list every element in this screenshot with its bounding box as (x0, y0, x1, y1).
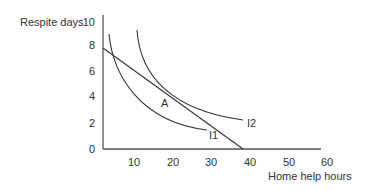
y-tick-label: 10 (83, 16, 95, 28)
y-tick-label: 2 (89, 117, 95, 129)
budget-line (103, 48, 243, 149)
y-tick-label: 6 (89, 65, 95, 77)
y-axis-title: Respite days (20, 16, 84, 28)
x-tick-label: 20 (167, 156, 179, 168)
indifference-curve-i2 (137, 30, 243, 120)
y-tick-label: 8 (89, 39, 95, 51)
x-tick-label: 30 (205, 156, 217, 168)
x-tick-label: 40 (244, 156, 256, 168)
x-tick-label: 60 (321, 156, 333, 168)
x-axis-title: Home help hours (268, 170, 352, 182)
chart-canvas: Respite days 10 8 6 4 2 0 10 20 30 40 50… (0, 0, 365, 190)
y-tick-label: 0 (89, 143, 95, 155)
indifference-curve-chart: Respite days 10 8 6 4 2 0 10 20 30 40 50… (0, 0, 365, 190)
y-tick-label: 4 (89, 90, 95, 102)
i2-label: I2 (247, 117, 256, 129)
x-tick-label: 10 (128, 156, 140, 168)
point-a-label: A (161, 97, 169, 109)
i1-label: I1 (209, 129, 218, 141)
x-tick-label: 50 (283, 156, 295, 168)
